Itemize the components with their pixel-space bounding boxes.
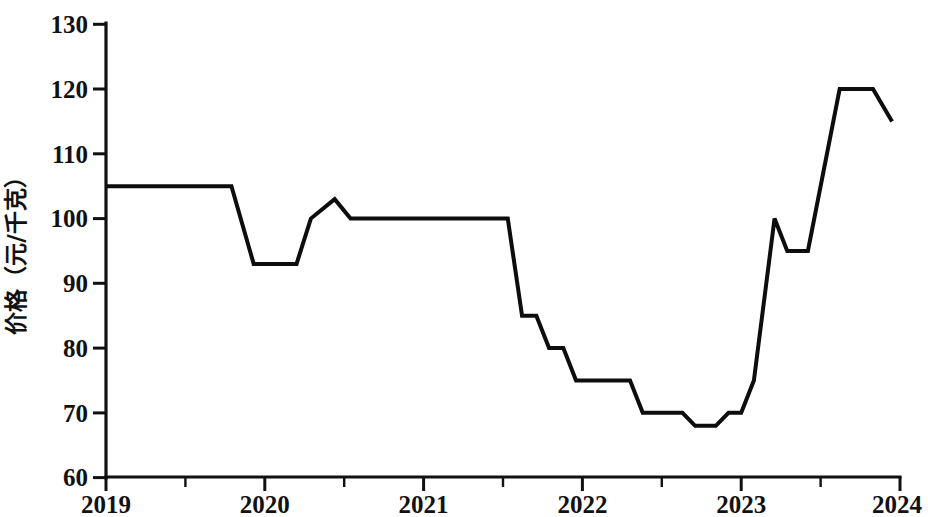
y-axis-ticks	[93, 24, 106, 477]
y-axis-tick-labels: 130 120 110 100 90 80 70 60	[51, 11, 89, 491]
x-tick-label: 2019	[81, 491, 131, 517]
x-tick-label: 2022	[557, 491, 607, 517]
y-tick-label: 90	[63, 270, 88, 297]
y-tick-label: 70	[63, 400, 88, 427]
x-tick-label: 2024	[872, 491, 923, 517]
y-tick-label: 120	[51, 76, 89, 103]
x-tick-label: 2020	[240, 491, 290, 517]
y-tick-label: 100	[51, 205, 89, 232]
chart-canvas: 130 120 110 100 90 80 70 60	[0, 0, 928, 517]
x-axis-tick-labels: 2019 2020 2021 2022 2023 2024	[81, 491, 923, 517]
y-tick-label: 80	[63, 335, 88, 362]
x-tick-label: 2023	[716, 491, 766, 517]
y-tick-label: 60	[63, 464, 88, 491]
y-tick-label: 110	[52, 141, 88, 168]
price-line-chart: 130 120 110 100 90 80 70 60	[0, 0, 928, 517]
price-series-line	[106, 89, 892, 426]
y-tick-label: 130	[51, 11, 89, 38]
x-tick-label: 2021	[399, 491, 449, 517]
y-axis-title: 价格（元/千克）	[3, 165, 29, 334]
